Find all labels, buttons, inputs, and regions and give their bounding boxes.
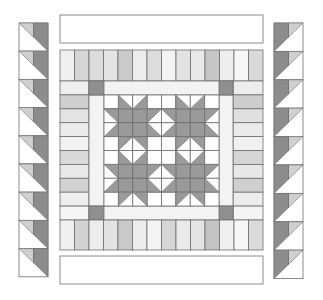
star-block <box>104 95 219 206</box>
strip <box>233 123 263 137</box>
strip <box>60 137 89 151</box>
sashing-right <box>219 95 233 206</box>
sashing-bottom <box>89 206 233 220</box>
strip <box>60 95 89 109</box>
block-cell <box>162 151 176 165</box>
strip <box>162 220 177 250</box>
strip <box>233 206 263 220</box>
block-cell <box>162 95 176 109</box>
star-center <box>176 109 190 123</box>
star-center <box>133 109 147 123</box>
block-cell <box>104 95 118 109</box>
right-triangle-border <box>274 23 303 279</box>
block-cell <box>205 192 219 206</box>
star-center <box>133 178 147 192</box>
strip <box>233 151 263 165</box>
quilt-canvas <box>0 0 323 300</box>
strip <box>89 50 104 81</box>
bottom-banner <box>60 256 263 284</box>
star-center <box>190 164 204 178</box>
corner-square <box>89 81 104 95</box>
strip <box>60 192 89 206</box>
strip <box>234 220 249 250</box>
top-banner-panel <box>60 15 263 43</box>
block-cell <box>147 137 161 151</box>
strip <box>162 50 177 81</box>
quilt-pattern <box>0 0 323 300</box>
star-center <box>118 164 132 178</box>
strip <box>118 50 133 81</box>
left-side-strips <box>60 81 89 220</box>
block-cell <box>104 192 118 206</box>
strip <box>89 220 104 250</box>
star-center <box>190 109 204 123</box>
block-cell <box>205 151 219 165</box>
block-cell <box>147 192 161 206</box>
block-cell <box>162 137 176 151</box>
star-center <box>176 123 190 137</box>
strip <box>233 95 263 109</box>
strip <box>60 151 89 165</box>
bottom-banner-panel <box>60 256 263 284</box>
strip <box>104 50 119 81</box>
corner-square <box>89 206 104 220</box>
block-cell <box>104 137 118 151</box>
strip <box>220 50 235 81</box>
strip <box>147 220 162 250</box>
corner-square <box>219 81 233 95</box>
top-strip-row <box>60 50 263 81</box>
strip <box>176 50 191 81</box>
star-center <box>118 109 132 123</box>
block-cell <box>147 151 161 165</box>
top-banner <box>60 15 263 43</box>
block-cell <box>147 95 161 109</box>
star-center <box>190 178 204 192</box>
strip <box>233 81 263 95</box>
corner-square <box>219 206 233 220</box>
strip <box>233 137 263 151</box>
block-cell <box>162 192 176 206</box>
strip <box>233 192 263 206</box>
strip <box>249 220 264 250</box>
strip <box>104 220 119 250</box>
sashing-top <box>89 81 233 95</box>
star-center <box>133 164 147 178</box>
block-cell <box>205 137 219 151</box>
block-cell <box>205 95 219 109</box>
star-center <box>176 178 190 192</box>
strip <box>191 220 206 250</box>
strip <box>249 50 264 81</box>
star-center <box>176 164 190 178</box>
strip <box>205 50 220 81</box>
strip <box>118 220 133 250</box>
strip <box>234 50 249 81</box>
block-cell <box>104 151 118 165</box>
strip <box>176 220 191 250</box>
right-side-strips <box>233 81 263 220</box>
star-center <box>190 123 204 137</box>
star-center <box>118 178 132 192</box>
strip <box>220 220 235 250</box>
strip <box>133 220 148 250</box>
strip <box>233 178 263 192</box>
strip <box>75 50 90 81</box>
star-center <box>118 123 132 137</box>
strip <box>60 109 89 123</box>
strip <box>60 81 89 95</box>
bottom-strip-row <box>60 220 263 250</box>
strip <box>60 123 89 137</box>
strip <box>60 50 75 81</box>
sashing-left <box>89 95 104 206</box>
strip <box>233 164 263 178</box>
strip <box>60 178 89 192</box>
strip <box>233 109 263 123</box>
strip <box>147 50 162 81</box>
strip <box>60 220 75 250</box>
star-center <box>133 123 147 137</box>
strip <box>133 50 148 81</box>
strip <box>75 220 90 250</box>
strip <box>60 206 89 220</box>
strip <box>60 164 89 178</box>
strip <box>205 220 220 250</box>
strip <box>191 50 206 81</box>
